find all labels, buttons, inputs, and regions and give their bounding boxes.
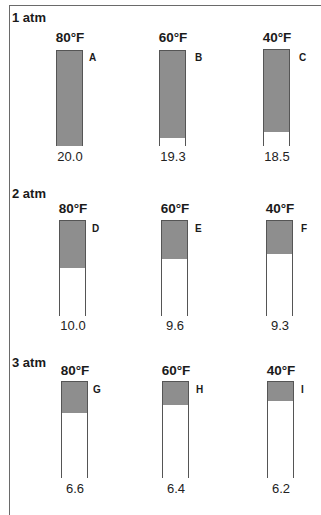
gas-volume-fill — [267, 221, 292, 254]
cylinder-d — [59, 220, 86, 316]
cylinder-a — [56, 50, 83, 146]
temperature-label: 60°F — [145, 201, 205, 216]
pressure-label: 2 atm — [12, 186, 46, 201]
gas-volume-fill — [163, 382, 188, 405]
temperature-label: 40°F — [250, 201, 310, 216]
cylinder-letter: G — [93, 384, 101, 395]
gas-volume-fill — [160, 51, 185, 138]
volume-value: 9.3 — [250, 318, 310, 333]
volume-value: 6.6 — [45, 481, 105, 496]
gas-volume-fill — [264, 50, 289, 132]
pressure-label: 1 atm — [12, 10, 46, 25]
volume-value: 18.5 — [247, 149, 307, 164]
cylinder-e — [161, 220, 188, 316]
cylinder-letter: C — [299, 52, 306, 63]
cylinder-letter: D — [92, 223, 99, 234]
cylinder-letter: B — [195, 52, 202, 63]
gas-volume-fill — [57, 51, 82, 146]
gas-volume-fill — [268, 382, 293, 401]
temperature-label: 40°F — [247, 30, 307, 45]
cylinder-c — [263, 49, 290, 146]
volume-value: 19.3 — [143, 149, 203, 164]
gas-volume-fill — [62, 382, 87, 413]
gas-volume-fill — [162, 221, 187, 259]
gas-volume-fill — [60, 221, 85, 268]
cylinder-i — [267, 381, 294, 478]
temperature-label: 60°F — [143, 30, 203, 45]
frame-top-border — [9, 5, 321, 6]
cylinder-letter: F — [301, 223, 307, 234]
cylinder-g — [61, 381, 88, 478]
temperature-label: 80°F — [43, 201, 103, 216]
cylinder-letter: A — [89, 52, 96, 63]
volume-value: 6.2 — [251, 481, 311, 496]
cylinder-letter: I — [301, 384, 304, 395]
cylinder-letter: H — [196, 384, 203, 395]
cylinder-f — [266, 220, 293, 316]
frame-left-border — [9, 5, 10, 515]
volume-value: 9.6 — [145, 318, 205, 333]
volume-value: 10.0 — [43, 318, 103, 333]
temperature-label: 80°F — [40, 30, 100, 45]
pressure-label: 3 atm — [12, 355, 46, 370]
temperature-label: 60°F — [146, 363, 206, 378]
volume-value: 20.0 — [40, 149, 100, 164]
cylinder-h — [162, 381, 189, 478]
volume-value: 6.4 — [146, 481, 206, 496]
temperature-label: 40°F — [251, 363, 311, 378]
cylinder-letter: E — [195, 223, 202, 234]
cylinder-b — [159, 50, 186, 146]
temperature-label: 80°F — [45, 363, 105, 378]
